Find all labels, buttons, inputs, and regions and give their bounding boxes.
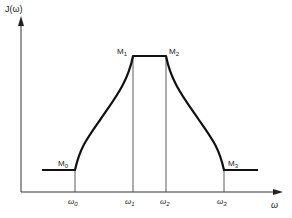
label-m1: M1 xyxy=(117,47,128,57)
x-axis-arrow-icon xyxy=(273,189,283,195)
label-m3: M3 xyxy=(228,159,239,169)
label-m2: M2 xyxy=(169,47,180,57)
tick-omega1: ω1 xyxy=(125,197,135,207)
y-axis-arrow-icon xyxy=(18,16,24,26)
response-curve xyxy=(42,56,258,170)
tick-omega0: ω0 xyxy=(68,197,78,207)
y-axis-label: J(ω) xyxy=(5,4,23,14)
tick-omega3: ω3 xyxy=(217,197,227,207)
x-axis-label: ω xyxy=(271,200,278,210)
tick-omega2: ω2 xyxy=(160,197,170,207)
label-m0: M0 xyxy=(58,159,69,169)
spectral-density-diagram: J(ω) ω M0 M1 M2 M3 ω0 ω1 ω2 ω3 xyxy=(0,0,292,218)
